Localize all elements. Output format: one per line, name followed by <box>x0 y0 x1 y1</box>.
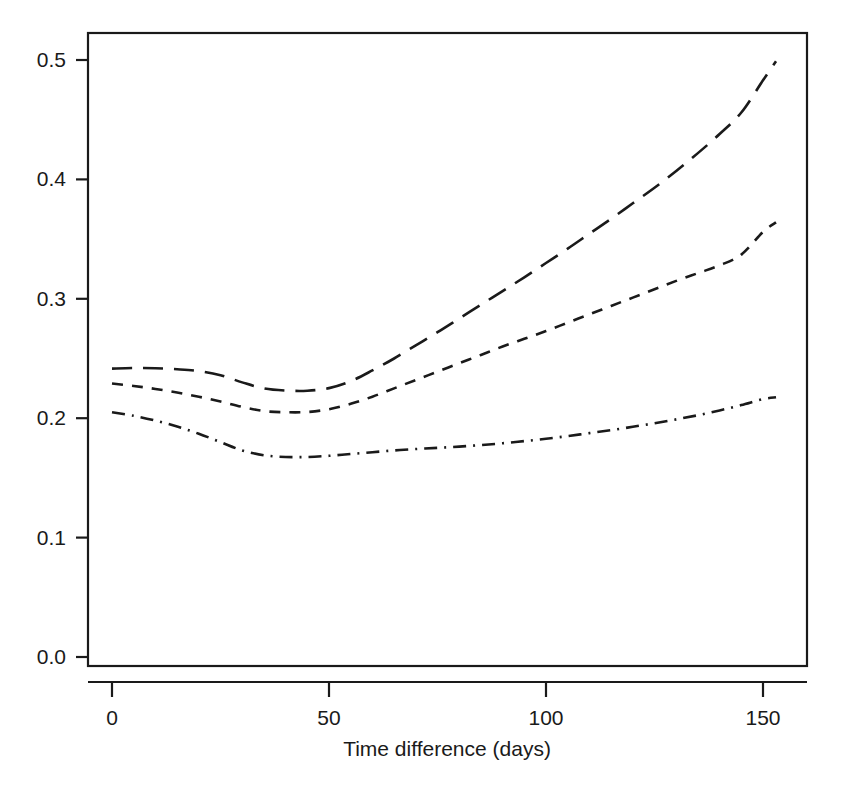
series-line-upper-curve <box>112 61 776 391</box>
y-tick-label: 0.0 <box>37 645 66 668</box>
x-axis-title: Time difference (days) <box>343 737 551 760</box>
y-axis-ticks: 0.00.10.20.30.40.5 <box>37 48 88 668</box>
y-tick-label: 0.3 <box>37 287 66 310</box>
series-line-middle-curve <box>112 222 776 412</box>
x-tick-label: 0 <box>106 706 118 729</box>
x-tick-label: 150 <box>745 706 780 729</box>
data-series-group <box>112 61 776 457</box>
x-tick-label: 50 <box>317 706 340 729</box>
x-tick-label: 100 <box>528 706 563 729</box>
series-line-lower-curve <box>112 397 776 457</box>
y-tick-label: 0.2 <box>37 406 66 429</box>
chart-canvas: 0.00.10.20.30.40.5 050100150 Time differ… <box>0 0 846 794</box>
x-axis-ticks: 050100150 <box>106 682 780 729</box>
y-tick-label: 0.1 <box>37 526 66 549</box>
plot-frame <box>88 33 807 666</box>
y-tick-label: 0.5 <box>37 48 66 71</box>
y-tick-label: 0.4 <box>37 167 67 190</box>
chart-figure: 0.00.10.20.30.40.5 050100150 Time differ… <box>0 0 846 794</box>
